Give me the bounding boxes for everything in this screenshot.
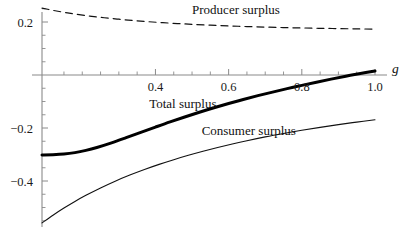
- chart-canvas: 0.4 0.6 0.8 1.0 0.2 −0.2 −0.4 g Producer…: [0, 0, 411, 234]
- surplus-chart-figure: 0.4 0.6 0.8 1.0 0.2 −0.2 −0.4 g Producer…: [0, 0, 411, 234]
- y-tick-label-0.2: 0.2: [17, 16, 33, 30]
- total-surplus-label: Total surplus: [149, 96, 216, 111]
- y-tick-label-minus-0.4: −0.4: [10, 175, 33, 189]
- chart-background: [0, 0, 411, 234]
- x-tick-label-0.6: 0.6: [221, 80, 237, 94]
- x-tick-label-1.0: 1.0: [367, 80, 383, 94]
- x-axis-title: g: [392, 61, 399, 76]
- x-tick-label-0.8: 0.8: [294, 80, 310, 94]
- x-tick-label-0.4: 0.4: [148, 80, 164, 94]
- y-tick-label-minus-0.2: −0.2: [10, 122, 33, 136]
- producer-surplus-label: Producer surplus: [192, 2, 280, 17]
- consumer-surplus-label: Consumer surplus: [202, 123, 296, 138]
